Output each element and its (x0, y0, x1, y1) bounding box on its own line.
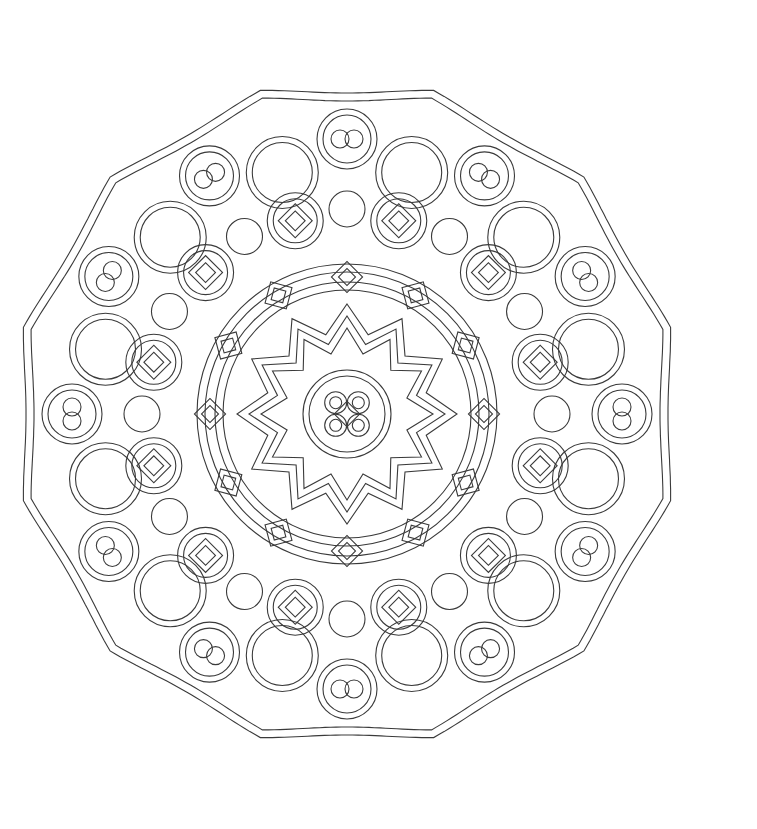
mandala-canvas (0, 0, 757, 829)
mandala-artwork (0, 0, 757, 829)
outer-border (23, 90, 670, 737)
